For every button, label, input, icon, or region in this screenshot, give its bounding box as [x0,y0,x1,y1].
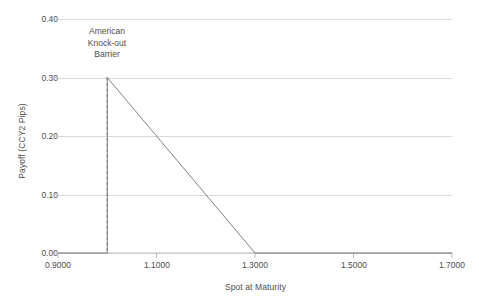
annotation-line-2: Knock-out [48,38,166,50]
knock-out-barrier-annotation: American Knock-out Barrier [48,26,166,61]
y-tick-label-020: 0.20 [18,131,58,141]
y-tick-label-010: 0.10 [18,190,58,200]
y-tick-label-000: 0.00 [18,248,58,258]
annotation-line-1: American [48,26,166,38]
x-axis-line [58,253,452,258]
y-axis-title: Payoff (CCY2 Pips) [17,81,27,201]
x-axis-title: Spot at Maturity [58,282,453,292]
y-tick-label-040: 0.40 [18,14,58,24]
payoff-series-line [58,78,452,254]
y-tick-label-030: 0.30 [18,73,58,83]
plot-area: American Knock-out Barrier [58,19,452,253]
payoff-chart: Payoff (CCY2 Pips) 0.40 0.30 0.20 0.10 0… [0,0,479,302]
annotation-line-3: Barrier [48,49,166,61]
